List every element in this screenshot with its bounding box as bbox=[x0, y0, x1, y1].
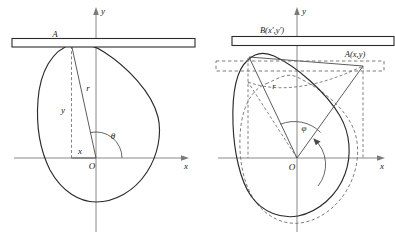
left-label-r: r bbox=[86, 83, 90, 93]
left-label-origin: O bbox=[89, 161, 96, 171]
right-label-x-axis: x bbox=[379, 161, 384, 171]
right-label-B: B(x′,y′) bbox=[260, 25, 284, 35]
left-follower-bar bbox=[12, 39, 195, 48]
right-radius-oa bbox=[297, 66, 363, 158]
left-label-y-axis: y bbox=[100, 6, 105, 16]
cam-diagram-svg: A r y x θ O y x bbox=[0, 0, 395, 244]
right-label-r: r bbox=[272, 81, 276, 91]
figure-root: A r y x θ O y x bbox=[0, 0, 395, 244]
right-label-origin: O bbox=[289, 162, 296, 172]
right-rotation-arrowhead bbox=[313, 138, 320, 145]
right-radius-ob bbox=[249, 57, 297, 158]
right-cam-profile-rotated bbox=[233, 53, 349, 217]
right-label-A: A(x,y) bbox=[344, 49, 366, 59]
left-cam-profile bbox=[38, 43, 160, 202]
left-label-A: A bbox=[51, 29, 58, 39]
left-label-y: y bbox=[60, 105, 65, 115]
right-rotation-arc bbox=[314, 139, 326, 186]
right-phi-arc bbox=[280, 122, 320, 133]
right-follower-bar bbox=[232, 37, 394, 46]
left-panel: A r y x θ O y x bbox=[12, 6, 195, 232]
right-label-phi: φ bbox=[302, 123, 307, 133]
right-x-axis bbox=[218, 155, 385, 161]
right-panel: B(x′,y′) A(x,y) r φ O y x bbox=[216, 6, 394, 232]
left-x-axis bbox=[14, 155, 189, 161]
right-radius-original bbox=[248, 82, 297, 158]
right-label-y-axis: y bbox=[301, 6, 306, 16]
left-radius-line bbox=[72, 45, 97, 158]
left-label-x: x bbox=[77, 146, 82, 156]
left-label-x-axis: x bbox=[183, 161, 188, 171]
left-label-theta: θ bbox=[111, 131, 116, 141]
